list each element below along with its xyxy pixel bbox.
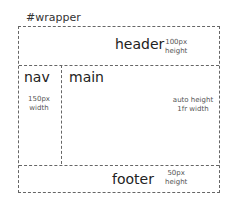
footer-label: footer	[112, 171, 154, 187]
main-note: auto height 1fr width	[171, 96, 215, 114]
nav-label: nav	[24, 69, 50, 85]
header-note-size: 100px	[165, 38, 187, 47]
header-note-dimension: height	[165, 47, 187, 56]
nav-note: 150px width	[27, 95, 51, 113]
nav-divider	[61, 65, 62, 164]
footer-note-size: 50px	[165, 169, 187, 178]
main-note-height: auto height	[171, 96, 215, 105]
nav-note-dimension: width	[27, 104, 51, 113]
footer-note-dimension: height	[165, 178, 187, 187]
footer-note: 50px height	[165, 169, 187, 187]
wrapper-box: header 100px height nav 150px width main…	[18, 26, 220, 193]
header-note: 100px height	[165, 38, 187, 56]
header-label: header	[115, 36, 164, 52]
header-divider	[19, 65, 219, 66]
wrapper-label: #wrapper	[26, 11, 81, 24]
footer-divider	[19, 165, 219, 166]
nav-note-size: 150px	[27, 95, 51, 104]
main-note-width: 1fr width	[171, 105, 215, 114]
main-label: main	[69, 69, 104, 85]
